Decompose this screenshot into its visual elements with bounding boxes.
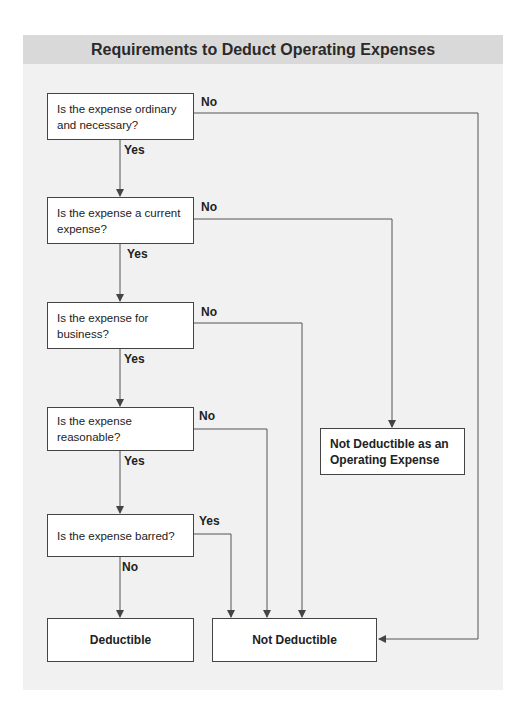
question-barred: Is the expense barred? (47, 514, 194, 557)
label-q1-yes: Yes (124, 143, 145, 157)
label-q2-no: No (201, 200, 217, 214)
question-ordinary-necessary: Is the expense ordinary and necessary? (47, 93, 194, 140)
label-q5-yes: Yes (199, 514, 220, 528)
outcome-not-deductible-operating: Not Deductible as an Operating Expense (320, 428, 465, 475)
label-q2-yes: Yes (127, 247, 148, 261)
question-text: Is the expense a current expense? (57, 205, 184, 237)
question-text: Is the expense for business? (57, 310, 184, 342)
outcome-deductible: Deductible (47, 618, 194, 662)
question-text: Is the expense ordinary and necessary? (57, 101, 184, 133)
label-q5-no: No (122, 560, 138, 574)
outcome-not-deductible: Not Deductible (212, 618, 377, 662)
outcome-text: Not Deductible as an Operating Expense (330, 436, 455, 468)
label-q4-yes: Yes (124, 454, 145, 468)
label-q3-yes: Yes (124, 352, 145, 366)
question-text: Is the expense barred? (57, 528, 175, 544)
label-q4-no: No (199, 409, 215, 423)
question-for-business: Is the expense for business? (47, 302, 194, 349)
question-current-expense: Is the expense a current expense? (47, 197, 194, 244)
question-reasonable: Is the expense reasonable? (47, 407, 194, 451)
question-text: Is the expense reasonable? (57, 413, 184, 445)
label-q3-no: No (201, 305, 217, 319)
label-q1-no: No (201, 95, 217, 109)
outcome-text: Deductible (90, 632, 151, 648)
outcome-text: Not Deductible (252, 632, 337, 648)
